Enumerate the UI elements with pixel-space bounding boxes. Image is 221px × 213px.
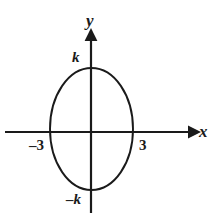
graph-canvas (0, 0, 221, 213)
x-intercept-positive-label: 3 (139, 138, 147, 153)
x-axis-label: x (199, 123, 208, 140)
ellipse-figure: y x k –k –3 3 (0, 0, 221, 213)
x-intercept-negative-label: –3 (29, 138, 44, 153)
y-intercept-negative-label: –k (66, 192, 81, 207)
y-intercept-positive-label: k (72, 50, 80, 65)
y-axis-label: y (86, 12, 94, 29)
